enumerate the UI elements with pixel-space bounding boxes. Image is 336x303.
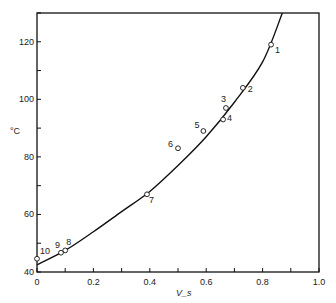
y-tick-label: 100 bbox=[19, 94, 34, 104]
x-axis: 00.20.40.60.81.0 bbox=[34, 268, 325, 287]
x-tick-label: 0.6 bbox=[200, 277, 213, 287]
point-label: 10 bbox=[40, 246, 50, 256]
data-points: 12345678910 bbox=[35, 42, 280, 261]
data-point bbox=[35, 256, 40, 261]
point-label: 2 bbox=[248, 84, 253, 94]
x-tick-label: 0.8 bbox=[256, 277, 269, 287]
x-tick-label: 0.4 bbox=[144, 277, 157, 287]
y-tick-label: 60 bbox=[24, 209, 34, 219]
x-axis-label: V_s bbox=[176, 288, 192, 298]
data-point bbox=[221, 117, 226, 122]
point-label: 3 bbox=[221, 94, 226, 104]
y-axis: 406080100120 bbox=[19, 13, 41, 277]
y-tick-label: 80 bbox=[24, 152, 34, 162]
y-tick-label: 120 bbox=[19, 37, 34, 47]
fitted-curve bbox=[37, 13, 282, 265]
point-label: 7 bbox=[149, 195, 154, 205]
chart: 00.20.40.60.81.0 406080100120 1234567891… bbox=[0, 0, 336, 303]
point-label: 1 bbox=[275, 45, 280, 55]
point-label: 9 bbox=[55, 240, 60, 250]
x-tick-label: 1.0 bbox=[313, 277, 326, 287]
point-label: 8 bbox=[66, 237, 71, 247]
data-point bbox=[240, 85, 245, 90]
y-tick-label: 40 bbox=[24, 267, 34, 277]
data-point bbox=[59, 250, 64, 255]
point-label: 6 bbox=[168, 139, 173, 149]
point-label: 4 bbox=[227, 113, 232, 123]
x-tick-label: 0 bbox=[34, 277, 39, 287]
data-point bbox=[176, 146, 181, 151]
data-point bbox=[224, 106, 229, 111]
y-axis-label: °C bbox=[10, 126, 21, 136]
point-label: 5 bbox=[194, 120, 199, 130]
data-point bbox=[201, 129, 206, 134]
data-point bbox=[269, 42, 274, 47]
x-tick-label: 0.2 bbox=[87, 277, 100, 287]
